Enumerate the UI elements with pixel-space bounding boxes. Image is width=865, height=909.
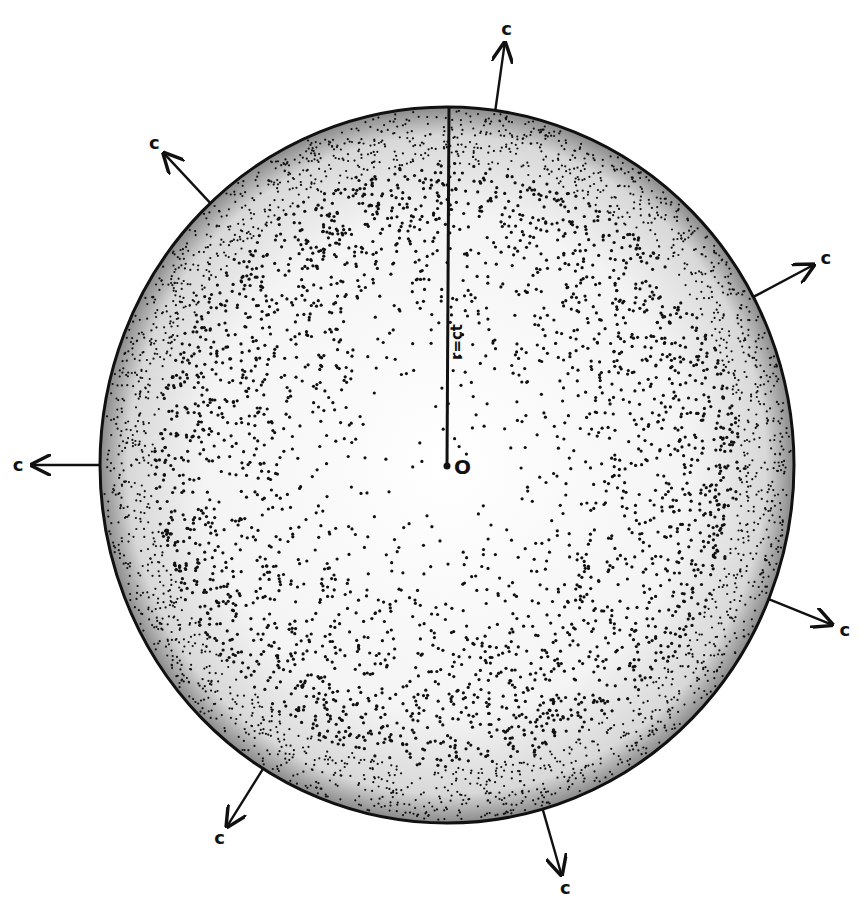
- velocity-arrow: [769, 599, 832, 624]
- arrow-label-c: c: [13, 454, 24, 475]
- arrow-label-c: c: [820, 247, 831, 268]
- velocity-arrow: [543, 809, 562, 874]
- expanding-sphere-diagram: O r=ct ccccccc: [0, 0, 865, 909]
- arrow-label-c: c: [214, 827, 225, 848]
- radius-line: [447, 107, 449, 466]
- origin-point: [444, 463, 451, 470]
- origin-label: O: [454, 455, 471, 479]
- arrow-label-c: c: [149, 132, 160, 153]
- arrow-label-c: c: [839, 619, 850, 640]
- velocity-arrow: [164, 153, 210, 203]
- arrow-label-c: c: [560, 877, 571, 898]
- velocity-arrow: [753, 265, 813, 297]
- velocity-arrow: [227, 769, 263, 827]
- velocity-arrow: [495, 43, 504, 110]
- radius-label: r=ct: [448, 324, 466, 360]
- arrow-label-c: c: [501, 18, 512, 39]
